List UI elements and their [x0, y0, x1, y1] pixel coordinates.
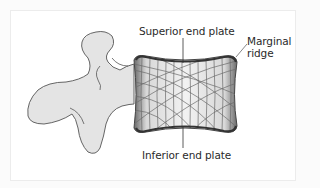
superior-end-plate-label: Superior end plate: [139, 25, 235, 37]
marginal-leader-line: [236, 44, 247, 57]
posterior-arch: [28, 32, 134, 154]
inferior-end-plate-label: Inferior end plate: [142, 149, 231, 161]
marginal-ridge-label: Marginal ridge: [247, 35, 291, 59]
marginal-ridge-label-line2: ridge: [247, 47, 291, 59]
marginal-ridge-label-line1: Marginal: [247, 35, 291, 47]
articular-line: [112, 58, 128, 66]
